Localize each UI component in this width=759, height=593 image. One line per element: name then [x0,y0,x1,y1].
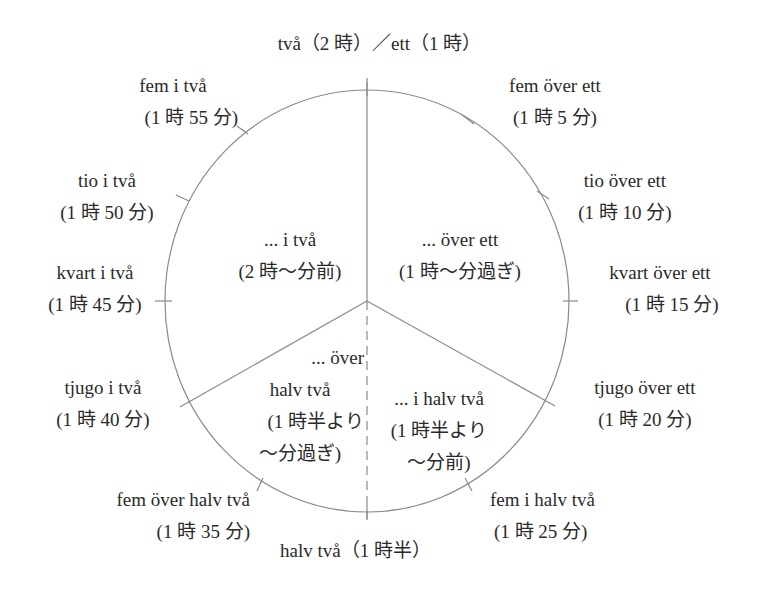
top-label: två（2 時）／ett（1 時） [0,28,759,55]
label-25-past: fem i halv två (1 時 25 分) [490,484,640,548]
bottom-label: halv två（1 時半） [280,535,500,567]
sector-upper-left: ... i två (2 時〜分前) [220,224,360,288]
label-5-to: fem i två (1 時 55 分) [108,70,238,134]
label-35-past: fem över halv två (1 時 35 分) [50,484,250,548]
sector-lower-right: ... i halv två (1 時半より 〜分前) [374,383,504,479]
label-10-to: tio i två (1 時 50 分) [42,165,172,229]
label-quarter-to: kvart i två (1 時 45 分) [30,257,160,321]
label-20-to: tjugo i två (1 時 40 分) [38,372,168,436]
label-quarter-past: kvart över ett (1 時 15 分) [580,257,740,321]
sector-lower-left: ... över halv två (1 時半より 〜分過ぎ) [236,342,364,470]
label-10-past: tio över ett (1 時 10 分) [560,165,690,229]
sector-upper-right: ... över ett (1 時〜分過ぎ) [375,224,545,288]
label-20-past: tjugo över ett (1 時 20 分) [565,372,725,436]
label-5-past: fem över ett (1 時 5 分) [480,70,630,134]
